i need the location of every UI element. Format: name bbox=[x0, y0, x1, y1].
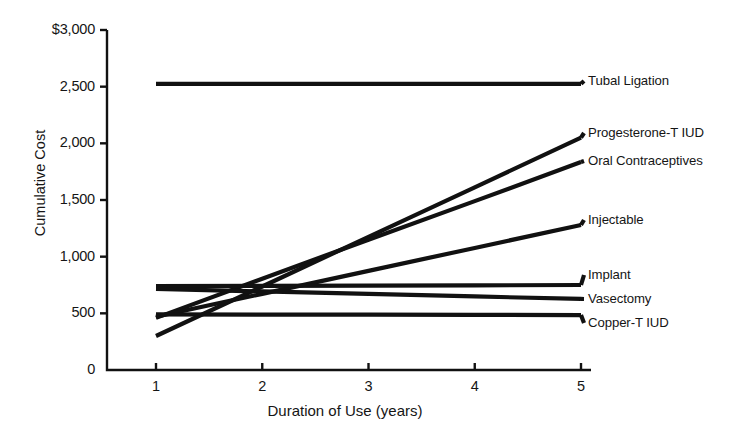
series-label: Injectable bbox=[588, 212, 643, 227]
y-tick-label: 0 bbox=[5, 361, 95, 377]
leader-0 bbox=[581, 81, 584, 84]
series-line-implant bbox=[156, 285, 581, 286]
label-leader-lines bbox=[581, 81, 584, 323]
y-tick-label: 500 bbox=[5, 304, 95, 320]
leader-2 bbox=[581, 161, 584, 162]
series-label: Oral Contraceptives bbox=[588, 153, 703, 168]
y-tick-label: 2,500 bbox=[5, 78, 95, 94]
leader-1 bbox=[581, 133, 584, 138]
axes bbox=[100, 30, 591, 370]
y-tick-label: 1,000 bbox=[5, 248, 95, 264]
series-label: Vasectomy bbox=[588, 291, 651, 306]
y-axis-title: Cumulative Cost bbox=[32, 103, 48, 263]
leader-6 bbox=[581, 315, 584, 323]
y-tick-label: 1,500 bbox=[5, 191, 95, 207]
x-tick-label: 2 bbox=[237, 378, 287, 394]
leader-3 bbox=[581, 220, 584, 225]
series-label: Tubal Ligation bbox=[588, 73, 669, 88]
x-axis-title: Duration of Use (years) bbox=[108, 402, 582, 419]
leader-4 bbox=[581, 275, 584, 285]
x-tick-label: 1 bbox=[131, 378, 181, 394]
series-label: Progesterone-T IUD bbox=[588, 125, 704, 140]
x-tick-label: 5 bbox=[556, 378, 606, 394]
x-tick-label: 4 bbox=[450, 378, 500, 394]
axis-spine bbox=[107, 30, 591, 370]
y-tick-label: $3,000 bbox=[5, 21, 95, 37]
series-line-copper-t-iud bbox=[156, 314, 581, 315]
y-tick-label: 2,000 bbox=[5, 134, 95, 150]
x-tick-label: 3 bbox=[344, 378, 394, 394]
chart-figure: $3,0002,5002,0001,5001,0005000 12345 Tub… bbox=[0, 0, 736, 440]
series-label: Implant bbox=[588, 267, 631, 282]
series-label: Copper-T IUD bbox=[588, 315, 669, 330]
data-series-group bbox=[156, 84, 581, 336]
